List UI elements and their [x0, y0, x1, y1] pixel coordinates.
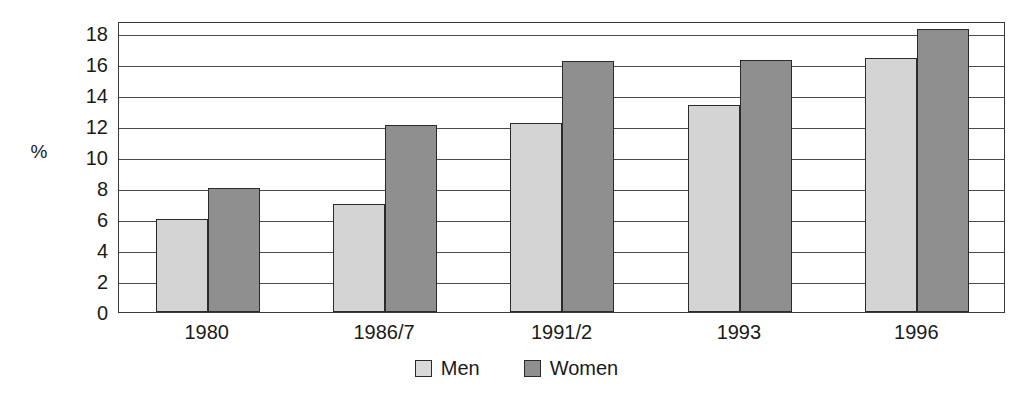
y-axis-tick-8: 8 [62, 179, 108, 199]
y-axis-tick-2: 2 [62, 272, 108, 292]
y-axis-tick-0: 0 [62, 303, 108, 323]
bar-series-container [119, 23, 1004, 312]
bar-group-1986-7 [296, 23, 473, 312]
x-axis-label-1996: 1996 [828, 320, 1005, 344]
x-axis-label-1991-2: 1991/2 [473, 320, 650, 344]
x-axis-label-1980: 1980 [118, 320, 295, 344]
bar-men-1986-7[interactable] [333, 204, 385, 312]
bar-men-1980[interactable] [156, 219, 208, 312]
y-axis-tick-labels: 024681012141618 [62, 22, 108, 313]
legend-swatch-men-icon [415, 360, 432, 377]
bar-women-1993[interactable] [740, 60, 792, 312]
plot-area [118, 22, 1005, 313]
bar-men-1996[interactable] [865, 58, 917, 312]
y-axis-tick-14: 14 [62, 86, 108, 106]
chart-page: % 024681012141618 19801986/71991/2199319… [0, 0, 1033, 397]
bar-women-1996[interactable] [917, 29, 969, 312]
x-axis-label-1986-7: 1986/7 [295, 320, 472, 344]
x-axis-label-1993: 1993 [650, 320, 827, 344]
bar-women-1991-2[interactable] [562, 61, 614, 312]
x-axis-category-labels: 19801986/71991/219931996 [118, 320, 1005, 350]
legend-item-men[interactable]: Men [415, 358, 480, 378]
bar-group-1996 [829, 23, 1006, 312]
legend-label-men: Men [441, 358, 480, 378]
chart-legend: MenWomen [0, 358, 1033, 378]
bar-women-1980[interactable] [208, 188, 260, 312]
y-axis-tick-18: 18 [62, 24, 108, 44]
y-axis-tick-6: 6 [62, 210, 108, 230]
legend-item-women[interactable]: Women [524, 358, 619, 378]
y-axis-tick-16: 16 [62, 55, 108, 75]
legend-label-women: Women [550, 358, 619, 378]
bar-men-1991-2[interactable] [510, 123, 562, 312]
bar-group-1993 [651, 23, 828, 312]
bar-group-1980 [119, 23, 296, 312]
y-axis-tick-12: 12 [62, 117, 108, 137]
y-axis-tick-10: 10 [62, 148, 108, 168]
bar-group-1991-2 [474, 23, 651, 312]
bar-women-1986-7[interactable] [385, 125, 437, 312]
bar-men-1993[interactable] [688, 105, 740, 312]
y-axis-tick-4: 4 [62, 241, 108, 261]
legend-swatch-women-icon [524, 360, 541, 377]
y-axis-title: % [22, 142, 56, 161]
